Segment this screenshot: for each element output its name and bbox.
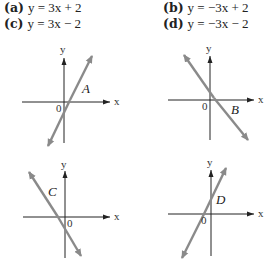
origin-label: 0 [56,102,62,114]
graph-c: x y 0 C [23,158,120,258]
graph-tag: C [48,184,57,199]
y-axis-label: y [206,42,212,54]
graph-tag: A [81,81,90,96]
y-axis-label: y [61,158,67,170]
x-axis-label: x [114,95,120,107]
graph-d: x y 0 D [168,156,264,258]
x-axis-label: x [258,93,264,105]
origin-label: 0 [201,214,207,226]
graph-line [204,168,226,214]
graph-b: x y 0 B [168,42,264,140]
origin-label: 0 [67,217,73,229]
x-axis-label: x [258,207,264,219]
graph-a: x y 0 A [22,43,120,146]
x-axis-label: x [114,210,120,222]
y-axis-label: y [207,156,213,168]
graphs-canvas: x y 0 A x y 0 B x y 0 C x y 0 D [0,0,278,273]
graph-tag: D [215,192,226,207]
y-axis-label: y [60,43,66,55]
graph-tag: B [231,102,239,117]
origin-label: 0 [202,100,208,112]
